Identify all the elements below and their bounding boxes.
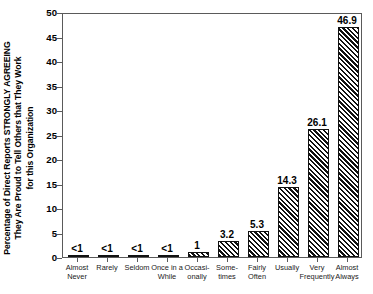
bar-value-label: 26.1 [302, 117, 332, 128]
bar[interactable] [158, 255, 179, 257]
x-tick-mark [317, 258, 318, 262]
x-tick-label: AlmostAlways [325, 263, 369, 281]
y-tick-label: 40 [17, 57, 57, 67]
bar-value-label: 14.3 [272, 175, 302, 186]
x-tick-mark [347, 258, 348, 262]
x-tick-label-line-2: Always [325, 272, 369, 281]
x-tick-mark [257, 258, 258, 262]
x-tick-mark [167, 258, 168, 262]
bar[interactable] [308, 129, 329, 257]
y-tick-label: 30 [17, 106, 57, 116]
x-tick-mark [107, 258, 108, 262]
bar[interactable] [218, 241, 239, 257]
bar[interactable] [338, 27, 359, 257]
y-tick-label: 50 [17, 8, 57, 18]
bar-value-label: 5.3 [242, 219, 272, 230]
bar-value-label: <1 [92, 243, 122, 254]
x-tick-mark [137, 258, 138, 262]
y-tick-mark [57, 258, 62, 259]
bar[interactable] [128, 255, 149, 257]
bar[interactable] [248, 231, 269, 257]
bar-chart-figure: Percentage of Direct Reports STRONGLY AG… [0, 0, 373, 294]
x-tick-label-line-2: Often [235, 272, 279, 281]
bar[interactable] [278, 187, 299, 257]
y-tick-label: 20 [17, 155, 57, 165]
bar-value-label: 1 [182, 240, 212, 251]
bar[interactable] [188, 252, 209, 257]
y-tick-label: 45 [17, 33, 57, 43]
bar-value-label: 3.2 [212, 229, 242, 240]
x-tick-label-line-1: Almost [336, 263, 359, 272]
y-tick-label: 35 [17, 82, 57, 92]
y-tick-label: 5 [17, 229, 57, 239]
y-axis-title-line-3: for this Organization [25, 107, 36, 190]
y-tick-label: 10 [17, 204, 57, 214]
bar-value-label: 46.9 [332, 15, 362, 26]
x-tick-mark [287, 258, 288, 262]
bar-value-label: <1 [152, 243, 182, 254]
x-tick-label-line-1: Very [310, 263, 325, 272]
x-tick-mark [227, 258, 228, 262]
bar-value-label: <1 [62, 243, 92, 254]
bar[interactable] [98, 255, 119, 257]
y-axis-title-line-1: Percentage of Direct Reports STRONGLY AG… [2, 41, 13, 254]
plot-area [62, 13, 362, 258]
bar[interactable] [68, 255, 89, 257]
y-tick-label: 0 [17, 253, 57, 263]
bar-value-label: <1 [122, 243, 152, 254]
x-tick-label-line-1: Fairly [248, 263, 266, 272]
x-tick-mark [77, 258, 78, 262]
y-tick-label: 25 [17, 131, 57, 141]
y-tick-label: 15 [17, 180, 57, 190]
x-tick-mark [197, 258, 198, 262]
x-tick-label-line-2: Never [55, 272, 99, 281]
